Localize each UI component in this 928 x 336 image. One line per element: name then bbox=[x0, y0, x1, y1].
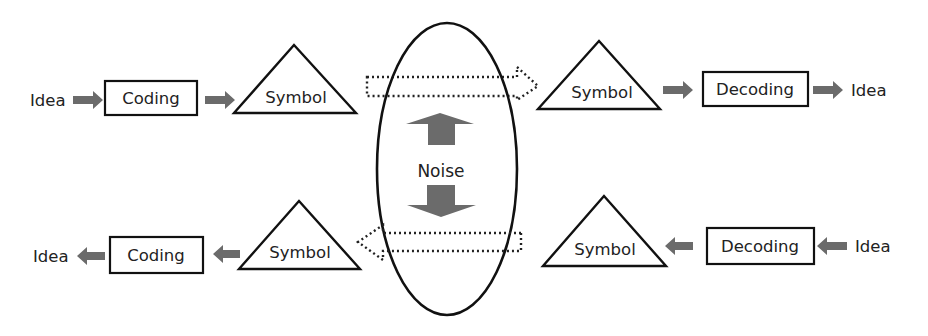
bottom-arrow-coding-to-idea bbox=[77, 247, 105, 265]
top-coding-label: Coding bbox=[122, 89, 180, 108]
noise-up-arrow bbox=[406, 113, 474, 145]
bottom-dotted-transmission-arrow bbox=[358, 225, 521, 260]
bottom-arrow-decoding-to-symbol bbox=[665, 237, 693, 255]
bottom-symbol-sender-label: Symbol bbox=[574, 240, 635, 259]
top-arrow-decoding-to-idea bbox=[813, 81, 843, 99]
communication-diagram: Idea Coding Symbol Symbol Decoding Idea … bbox=[0, 0, 928, 336]
top-decoding-label: Decoding bbox=[716, 80, 794, 99]
bottom-decoding-label: Decoding bbox=[721, 237, 799, 256]
bottom-symbol-receiver-label: Symbol bbox=[269, 243, 330, 262]
top-dotted-transmission-arrow bbox=[367, 67, 538, 100]
top-symbol-sender-label: Symbol bbox=[265, 88, 326, 107]
noise-label: Noise bbox=[417, 161, 464, 181]
top-arrow-coding-to-symbol bbox=[205, 91, 235, 109]
bottom-idea-destination-label: Idea bbox=[33, 247, 69, 266]
top-symbol-receiver-label: Symbol bbox=[571, 83, 632, 102]
top-arrow-idea-to-coding bbox=[73, 91, 103, 109]
top-idea-destination-label: Idea bbox=[851, 81, 887, 100]
noise-down-arrow bbox=[407, 185, 476, 217]
top-arrow-symbol-to-decoding bbox=[663, 81, 693, 99]
bottom-coding-label: Coding bbox=[127, 246, 185, 265]
top-idea-source-label: Idea bbox=[30, 91, 66, 110]
bottom-arrow-idea-to-decoding bbox=[817, 237, 847, 255]
bottom-idea-source-label: Idea bbox=[855, 237, 891, 256]
bottom-arrow-symbol-to-coding bbox=[213, 245, 240, 263]
